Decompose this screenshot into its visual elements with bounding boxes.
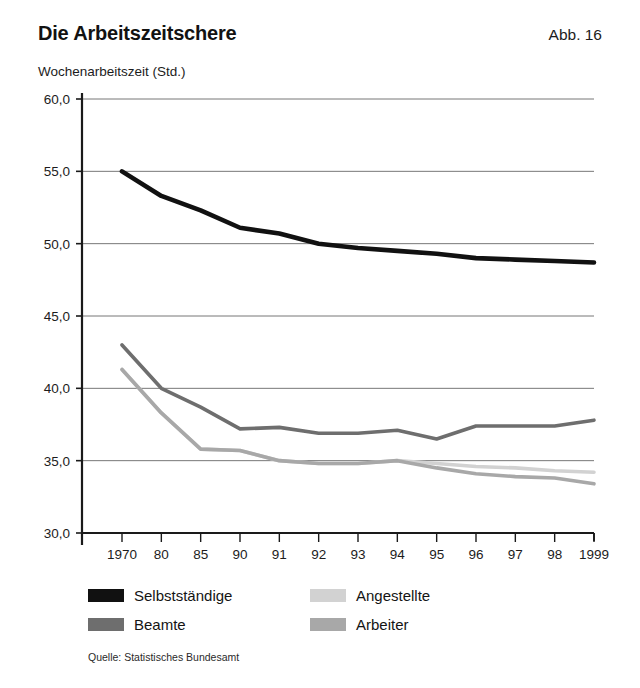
y-tick-label: 60,0 bbox=[44, 92, 70, 107]
series-line-beamte bbox=[122, 345, 594, 439]
x-tick-label: 90 bbox=[232, 547, 247, 560]
y-tick-label: 40,0 bbox=[44, 381, 70, 396]
y-tick-label: 30,0 bbox=[44, 526, 70, 541]
legend-label-angestellte: Angestellte bbox=[356, 588, 430, 603]
legend-item-beamte[interactable]: Beamte bbox=[88, 617, 186, 632]
legend-item-selbststaendige[interactable]: Selbstständige bbox=[88, 588, 232, 603]
x-tick-label: 94 bbox=[390, 547, 406, 560]
legend-swatch-beamte bbox=[88, 618, 124, 631]
series-line-selbststndige bbox=[122, 171, 594, 262]
source-note: Quelle: Statistisches Bundesamt bbox=[88, 651, 239, 663]
x-tick-label: 80 bbox=[154, 547, 169, 560]
chart-plot-area: 30,035,040,045,050,055,060,0197080859091… bbox=[0, 0, 640, 688]
legend-item-angestellte[interactable]: Angestellte bbox=[310, 588, 430, 603]
x-tick-label: 98 bbox=[547, 547, 562, 560]
x-tick-label: 1999 bbox=[579, 547, 609, 560]
line-chart-svg: 30,035,040,045,050,055,060,0197080859091… bbox=[0, 0, 640, 560]
legend-label-arbeiter: Arbeiter bbox=[356, 617, 409, 632]
legend-swatch-selbststaendige bbox=[88, 589, 124, 602]
x-tick-label: 93 bbox=[350, 547, 365, 560]
x-tick-label: 97 bbox=[508, 547, 523, 560]
x-tick-label: 92 bbox=[311, 547, 326, 560]
y-tick-label: 35,0 bbox=[44, 454, 70, 469]
x-tick-label: 95 bbox=[429, 547, 444, 560]
legend-swatch-angestellte bbox=[310, 589, 346, 602]
legend-swatch-arbeiter bbox=[310, 618, 346, 631]
y-tick-label: 45,0 bbox=[44, 309, 70, 324]
x-tick-label: 85 bbox=[193, 547, 208, 560]
legend-label-beamte: Beamte bbox=[134, 617, 186, 632]
y-tick-label: 55,0 bbox=[44, 164, 70, 179]
series-line-angestellte bbox=[122, 370, 594, 473]
legend-item-arbeiter[interactable]: Arbeiter bbox=[310, 617, 409, 632]
y-tick-label: 50,0 bbox=[44, 237, 70, 252]
x-tick-label: 91 bbox=[272, 547, 287, 560]
legend-label-selbststaendige: Selbstständige bbox=[134, 588, 232, 603]
x-tick-label: 96 bbox=[468, 547, 483, 560]
x-tick-label: 1970 bbox=[107, 547, 137, 560]
chart-page: Die Arbeitszeitschere Abb. 16 Wochenarbe… bbox=[0, 0, 640, 688]
